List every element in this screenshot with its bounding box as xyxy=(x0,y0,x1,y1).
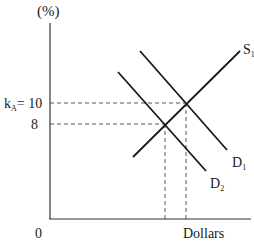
label-s1-sub: 1 xyxy=(251,50,254,59)
y-axis-label: (%) xyxy=(37,3,60,20)
label-d1-main: D xyxy=(232,155,242,170)
tick-label-8: 8 xyxy=(31,117,38,132)
label-d2-main: D xyxy=(210,176,220,191)
tick-label-10: kA= 10 xyxy=(4,96,42,113)
tick-label-10-rest: = 10 xyxy=(17,96,42,111)
label-d1: D1 xyxy=(232,155,246,172)
label-d2-sub: 2 xyxy=(220,184,224,193)
label-s1-main: S xyxy=(243,42,251,57)
demand-curve-d1 xyxy=(140,51,227,150)
x-axis-label: Dollars xyxy=(183,226,224,241)
origin-label: 0 xyxy=(35,226,42,241)
label-d1-sub: 1 xyxy=(242,163,246,172)
label-d2: D2 xyxy=(210,176,224,193)
label-s1: S1 xyxy=(243,42,254,59)
supply-demand-diagram: (%) kA= 10 8 0 Dollars S1 D1 D2 xyxy=(0,0,254,242)
tick-label-10-main: k xyxy=(4,96,11,111)
demand-curve-d2 xyxy=(118,72,206,171)
